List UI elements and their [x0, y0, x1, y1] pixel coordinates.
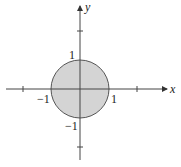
tick-label-y-pos: 1: [69, 48, 75, 62]
tick-label-x-neg: −1: [37, 92, 50, 106]
y-axis-label: y: [84, 0, 91, 14]
x-axis-label: x: [169, 82, 176, 96]
unit-disk-diagram: x y 1 −1 1 −1: [0, 0, 181, 167]
tick-label-x-pos: 1: [111, 92, 117, 106]
tick-label-y-neg: −1: [65, 119, 78, 133]
